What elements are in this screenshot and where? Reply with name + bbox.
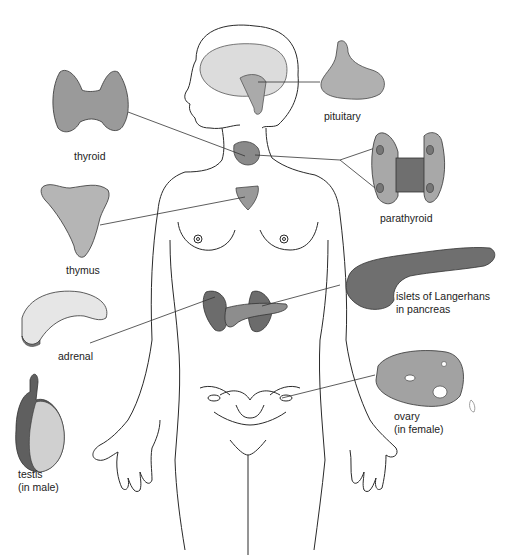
brain [200, 44, 287, 97]
label-pancreas-line1: islets of Langerhans [396, 290, 490, 303]
body-illustration [0, 0, 512, 559]
parathyroid-isthmus [396, 158, 426, 192]
leader-lines [90, 82, 375, 398]
label-pituitary: pituitary [324, 110, 361, 123]
thymus-gland [41, 185, 109, 258]
body-kidney-left [203, 291, 227, 331]
label-testis-line2: (in male) [18, 481, 59, 494]
ovary-gland [376, 351, 463, 407]
parathyroid-right-lobe [424, 133, 445, 203]
artifact-mark [470, 400, 475, 412]
label-thyroid: thyroid [74, 150, 106, 163]
label-parathyroid: parathyroid [380, 212, 433, 225]
label-thymus: thymus [66, 264, 100, 277]
endocrine-diagram: thyroid thymus pituitary parathyroid isl… [0, 0, 512, 559]
label-ovary-line1: ovary [394, 410, 420, 423]
label-testis-line1: testis [18, 468, 43, 481]
label-adrenal: adrenal [58, 350, 93, 363]
label-ovary-line2: (in female) [394, 423, 444, 436]
label-pancreas-line2: in pancreas [396, 303, 450, 316]
parathyroid-left-lobe [372, 133, 398, 204]
thyroid-gland [53, 70, 128, 131]
adrenal-gland [22, 291, 107, 344]
pituitary-gland [321, 41, 384, 99]
